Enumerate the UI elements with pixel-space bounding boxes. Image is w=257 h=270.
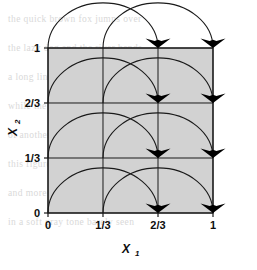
- y-tick-label: 0: [34, 207, 40, 219]
- x-axis-title-text: X: [121, 242, 131, 256]
- bleed-text-line: the quick brown fox jumps over: [8, 14, 142, 24]
- y-tick-label: 1/3: [25, 152, 40, 164]
- x-tick-label: 2/3: [150, 219, 165, 231]
- y-axis-title-subscript: 2: [13, 119, 22, 125]
- y-axis-title-text: X: [6, 127, 20, 137]
- arrowhead: [146, 39, 171, 49]
- figure-root: the quick brown fox jumps overthe lazy d…: [0, 0, 257, 270]
- y-tick-label: 1: [34, 42, 40, 54]
- x-tick-label: 0: [45, 219, 51, 231]
- bleed-text-line: in a soft gray tone barely seen: [8, 217, 134, 227]
- arrowhead: [201, 39, 226, 49]
- x-axis-title: X 1: [121, 242, 140, 258]
- plot-area-fill: [48, 48, 213, 213]
- y-tick-label: 2/3: [25, 97, 40, 109]
- diagram-svg: the quick brown fox jumps overthe lazy d…: [0, 0, 257, 270]
- x-tick-label: 1: [210, 219, 216, 231]
- y-axis-title: X 2: [6, 119, 22, 137]
- x-axis-title-subscript: 1: [135, 249, 140, 258]
- x-tick-label: 1/3: [95, 219, 110, 231]
